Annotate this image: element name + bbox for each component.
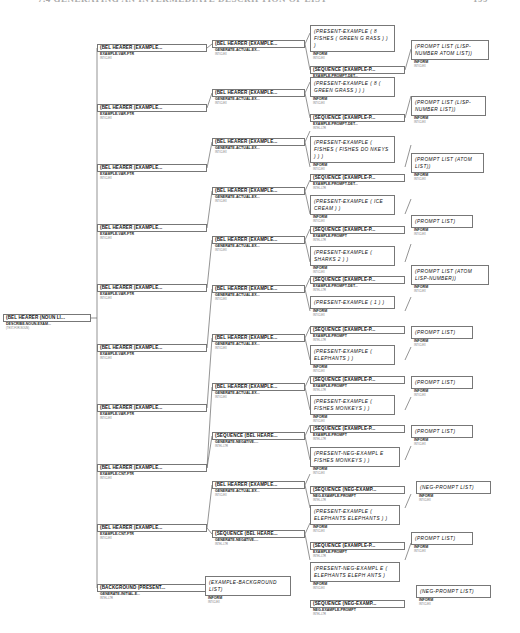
node-label: (BEL HEARER (EXAMPLE... (97, 284, 207, 292)
col3-sequence-node[interactable]: (SEQUENCE (EXAMPLE-P...EXAMPLE-PROMPT-DE… (310, 276, 405, 293)
col3-sequence-node[interactable]: (SEQUENCE (EXAMPLE-P...EXAMPLE-PROMPT-DE… (310, 114, 405, 131)
node-label: (NEG-PROMPT LIST) (416, 481, 491, 494)
col3-sequence-neg-node[interactable]: (SEQUENCE (NEG-EXAMP...NEG-EXAMPLE-PROMP… (310, 600, 405, 617)
node-note: INTEL-LTR (97, 597, 207, 601)
col3-sequence-neg-node[interactable]: (SEQUENCE (NEG-EXAMP...NEG-EXAMPLE-PROMP… (310, 486, 405, 503)
node-label: (PRESENT-EXAMPLE ( ELEPHANTS ) ) (310, 345, 395, 365)
col3-sequence-node[interactable]: (SEQUENCE (EXAMPLE-P...EXAMPLE-PROMPT-DE… (310, 174, 405, 191)
node-label: (SEQUENCE (EXAMPLE-P... (310, 276, 405, 284)
col4-neg-prompt-node[interactable]: (NEG-PROMPT LIST)INFORMINTICLEX (416, 585, 491, 607)
node-note: INTEL-LTR (212, 445, 305, 449)
col3-sequence-node[interactable]: (SEQUENCE (EXAMPLE-P...EXAMPLE-PROMPTINT… (310, 326, 405, 343)
node-label: (PROMPT LIST) (411, 425, 473, 438)
node-label: (PROMPT LIST (LISP-NUMBER ATOM LIST)) (411, 40, 489, 60)
col1-node[interactable]: (BEL HEARER (EXAMPLE...EXAMPLE-VAR-FTRIN… (97, 284, 207, 301)
col2-node[interactable]: (BEL HEARER (EXAMPLE...GENERATE-ACTUAL-E… (212, 383, 305, 400)
node-label: (PROMPT LIST (ATOM LISP-NUMBER)) (411, 265, 489, 285)
node-label: (PRESENT-NEG-EXAMPL E ( ELEPHANTS ELEPH … (310, 562, 400, 582)
node-label: (BEL HEARER (EXAMPLE... (97, 44, 207, 52)
node-note: INTICLEX (205, 601, 291, 605)
node-note: INTICLEX (416, 499, 491, 503)
node-label: (PRESENT-EXAMPLE ( FISHES ( FISHES DO NK… (310, 136, 395, 163)
node-note: INTICLEX (97, 177, 207, 181)
node-label: (PRESENT-EXAMPLE ( SHARKS 2 ) ) (310, 246, 395, 266)
col1-node[interactable]: (BEL HEARER (EXAMPLE...EXAMPLE-CNT-FTRIN… (97, 524, 207, 541)
col2-node[interactable]: (BEL HEARER (EXAMPLE...GENERATE-ACTUAL-E… (212, 285, 305, 302)
node-note: INTICLEX (310, 271, 395, 275)
col1-node[interactable]: (BEL HEARER (EXAMPLE...EXAMPLE-CNT-FTRIN… (97, 464, 207, 481)
col1-node[interactable]: (BEL HEARER (EXAMPLE...EXAMPLE-VAR-FTRIN… (97, 224, 207, 241)
node-label: (BEL HEARER (NOUN LI... (3, 314, 91, 322)
node-note: INTICLEX (310, 168, 395, 172)
col4-prompt-node[interactable]: (PROMPT LIST)INFORMINTICLEX (411, 532, 473, 554)
col1-node[interactable]: (BEL HEARER (EXAMPLE...EXAMPLE-VAR-FTRIN… (97, 404, 207, 421)
root-node[interactable]: (BEL HEARER (NOUN LI... DESCRIBE-NOUN-EX… (3, 314, 91, 331)
col2-node[interactable]: (BEL HEARER (EXAMPLE...GENERATE-ACTUAL-E… (212, 89, 305, 106)
col4-prompt-node[interactable]: (PROMPT LIST (LISP-NUMBER ATOM LIST))INF… (411, 40, 489, 69)
node-note: INTICLEX (97, 297, 207, 301)
col3-present-neg-node[interactable]: (PRESENT-NEG-EXAMPL E ( ELEPHANTS ELEPH … (310, 562, 400, 591)
node-note: INTEL-LTR (310, 438, 405, 442)
node-label: (SEQUENCE (EXAMPLE-P... (310, 376, 405, 384)
node-label: (SEQUENCE (EXAMPLE-P... (310, 174, 405, 182)
node-note: INTICLEX (310, 220, 395, 224)
node-note: INTICLEX (212, 298, 305, 302)
col3-present-node[interactable]: (PRESENT-EXAMPLE ( 1 ) )INFORMINTICLEX (310, 296, 395, 318)
col4-prompt-node[interactable]: (PROMPT LIST)INFORMINTICLEX (411, 376, 473, 398)
col2-node[interactable]: (BEL HEARER (EXAMPLE...GENERATE-ACTUAL-E… (212, 40, 305, 57)
col2-node[interactable]: (BEL HEARER (EXAMPLE...GENERATE-ACTUAL-E… (212, 138, 305, 155)
node-note: INTEL-LTR (310, 187, 405, 191)
node-note: INTEL-LTR (310, 613, 405, 617)
node-label: (PROMPT LIST) (411, 532, 473, 545)
col4-neg-prompt-node[interactable]: (NEG-PROMPT LIST)INFORMINTICLEX (416, 481, 491, 503)
col2-node[interactable]: (SEQUENCE (BEL HEARE...GENERATE-NEGATIVE… (212, 530, 305, 547)
col2-node[interactable]: (BEL HEARER (EXAMPLE...GENERATE-ACTUAL-E… (212, 334, 305, 351)
col3-present-node[interactable]: (PRESENT-EXAMPLE ( 8 FISHES ( GREEN G RA… (310, 25, 395, 61)
node-label: (BEL HEARER (EXAMPLE... (212, 89, 305, 97)
node-label: (BEL HEARER (EXAMPLE... (97, 224, 207, 232)
col3-present-node[interactable]: (PRESENT-EXAMPLE ( SHARKS 2 ) )INFORMINT… (310, 246, 395, 275)
node-label: (BEL HEARER (EXAMPLE... (97, 164, 207, 172)
col3-present-neg-node[interactable]: (PRESENT-NEG-EXAMPL E FISHES MONKEYS ) )… (310, 447, 400, 476)
col4-prompt-node[interactable]: (PROMPT LIST (ATOM LISP-NUMBER))INFORMIN… (411, 265, 489, 294)
col3-sequence-node[interactable]: (SEQUENCE (EXAMPLE-P...EXAMPLE-PROMPTINT… (310, 226, 405, 243)
col3-sequence-node[interactable]: (SEQUENCE (EXAMPLE-P...EXAMPLE-PROMPTINT… (310, 425, 405, 442)
col1-node[interactable]: (BACKGROUND (PRESENT...GENERATE-INITIAL-… (97, 584, 207, 601)
node-label: (BEL HEARER (EXAMPLE... (97, 344, 207, 352)
col4-prompt-node[interactable]: (PROMPT LIST)INFORMINTICLEX (411, 215, 473, 237)
col3-present-node[interactable]: (PRESENT-EXAMPLE ( ELEPHANTS ) )INFORMIN… (310, 345, 395, 374)
node-label: (BACKGROUND (PRESENT... (97, 584, 207, 592)
node-label: (SEQUENCE (EXAMPLE-P... (310, 226, 405, 234)
col2-node[interactable]: (BEL HEARER (EXAMPLE...GENERATE-ACTUAL-E… (212, 481, 305, 498)
col2-node[interactable]: (BEL HEARER (EXAMPLE...GENERATE-ACTUAL-E… (212, 187, 305, 204)
col4-prompt-node[interactable]: (PROMPT LIST)INFORMINTICLEX (411, 425, 473, 447)
node-note: INTICLEX (97, 417, 207, 421)
col4-prompt-node[interactable]: (PROMPT LIST (LISP-NUMBER LIST))INFORMIN… (411, 96, 486, 125)
col3-present-node[interactable]: (PRESENT-EXAMPLE ( FISHES MONKEYS ) )INF… (310, 395, 395, 424)
col2-node[interactable]: (SEQUENCE (BEL HEARE...GENERATE-NEGATIVE… (212, 432, 305, 449)
node-label: (BEL HEARER (EXAMPLE... (212, 334, 305, 342)
col4-prompt-node[interactable]: (PROMPT LIST)INFORMINTICLEX (411, 326, 473, 348)
col1-node[interactable]: (BEL HEARER (EXAMPLE...EXAMPLE-VAR-FTRIN… (97, 164, 207, 181)
col3-present-node[interactable]: (PRESENT-EXAMPLE ( ICE CREAM ) )INFORMIN… (310, 195, 395, 224)
col3-present-node[interactable]: (PRESENT-EXAMPLE ( 8 ( GREEN GRASS ) ) )… (310, 77, 395, 106)
col3-present-node[interactable]: (PRESENT-EXAMPLE ( FISHES ( FISHES DO NK… (310, 136, 395, 172)
node-note: INTICLEX (212, 102, 305, 106)
col1-node[interactable]: (BEL HEARER (EXAMPLE...EXAMPLE-VAR-FTRIN… (97, 104, 207, 121)
col1-node[interactable]: (BEL HEARER (EXAMPLE...EXAMPLE-VAR-FTRIN… (97, 344, 207, 361)
node-label: (BEL HEARER (EXAMPLE... (212, 481, 305, 489)
node-note: INTICLEX (97, 57, 207, 61)
col1-node[interactable]: (BEL HEARER (EXAMPLE...EXAMPLE-VAR-FTRIN… (97, 44, 207, 61)
col2-node[interactable]: (BEL HEARER (EXAMPLE...GENERATE-ACTUAL-E… (212, 236, 305, 253)
node-label: (NEG-PROMPT LIST) (416, 585, 491, 598)
node-label: (PROMPT LIST) (411, 326, 473, 339)
col4-prompt-node[interactable]: (PROMPT LIST (ATOM LIST))INFORMINTICLEX (411, 153, 484, 182)
node-note: INTICLEX (310, 314, 395, 318)
node-note: INTICLEX (310, 102, 395, 106)
col3-sequence-node[interactable]: (SEQUENCE (EXAMPLE-P...EXAMPLE-PROMPTINT… (310, 376, 405, 393)
node-note: INTEL-LTR (310, 389, 405, 393)
col2-node[interactable]: (EXAMPLE-BACKGROUND LIST)INFORMINTICLEX (205, 576, 291, 605)
node-note: INTICLEX (411, 290, 489, 294)
col3-sequence-node[interactable]: (SEQUENCE (EXAMPLE-P...EXAMPLE-PROMPTINT… (310, 542, 405, 559)
col3-present-node[interactable]: (PRESENT-EXAMPLE ( ELEPHANTS ELEPHANTS )… (310, 505, 400, 534)
